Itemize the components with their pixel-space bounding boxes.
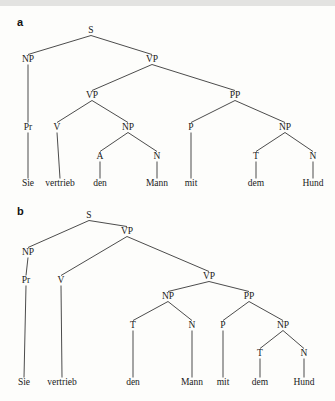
tree-node-label: VP	[146, 54, 158, 64]
syntax-tree-panel-a: a SNPVPVPPPPrVNPPNPANTNSievertriebdenMan…	[0, 0, 335, 200]
tree-leaf-word: Hund	[293, 377, 314, 387]
tree-edge	[92, 101, 128, 123]
tree-node-label: T	[257, 348, 263, 358]
tree-edge	[283, 331, 304, 349]
tree-leaf-word: den	[93, 178, 107, 188]
tree-node-label: NP	[22, 247, 34, 257]
tree-edge	[57, 101, 92, 123]
tree-node-label: VP	[121, 226, 133, 236]
tree-leaf-word: vertrieb	[47, 377, 77, 387]
tree-edge	[223, 302, 249, 321]
tree-edge	[168, 302, 192, 321]
tree-edge	[61, 286, 62, 378]
tree-edge	[128, 133, 157, 152]
tree-leaf-word: vertrieb	[45, 178, 75, 188]
tree-node-label: Pr	[22, 275, 31, 285]
tree-leaf-word: mit	[217, 377, 230, 387]
tree-node-label: NP	[279, 122, 291, 132]
tree-leaf-word: Sie	[22, 178, 34, 188]
tree-edge	[26, 258, 28, 276]
tree-node-label: A	[97, 151, 104, 161]
tree-edge	[168, 282, 209, 292]
tree-diagram-a: SNPVPVPPPPrVNPPNPANTNSievertriebdenMannm…	[0, 0, 335, 200]
tree-node-label: NP	[277, 320, 289, 330]
tree-edge	[28, 36, 91, 55]
tree-node-label: S	[86, 210, 91, 220]
tree-edge	[191, 101, 235, 123]
tree-node-label: N	[189, 320, 196, 330]
tree-leaf-word: mit	[185, 178, 198, 188]
tree-leaf-word: dem	[248, 178, 265, 188]
tree-node-label: N	[310, 151, 317, 161]
tree-edge	[28, 221, 89, 248]
tree-diagram-b: SNPVPPrVVPNPPPTNPNPTNSievertriebdenMannm…	[0, 198, 335, 401]
tree-leaf-word: Mann	[146, 178, 168, 188]
tree-node-label: N	[301, 348, 308, 358]
tree-node-label: VP	[203, 271, 215, 281]
tree-node-label: PP	[230, 90, 241, 100]
tree-leaf-word: Sie	[18, 377, 30, 387]
tree-leaf-word: dem	[252, 377, 269, 387]
tree-edge	[152, 65, 235, 91]
tree-edge	[127, 237, 209, 272]
tree-edge	[100, 133, 128, 152]
tree-edge	[24, 286, 26, 378]
tree-leaf-word: den	[126, 377, 140, 387]
tree-edge	[133, 302, 168, 321]
tree-node-label: N	[154, 151, 161, 161]
tree-edge	[209, 282, 249, 292]
tree-node-label: S	[88, 25, 93, 35]
tree-leaf-word: Hund	[302, 178, 323, 188]
tree-node-label: PP	[244, 291, 255, 301]
tree-node-label: VP	[86, 90, 98, 100]
tree-node-label: T	[253, 151, 259, 161]
tree-node-label: Pr	[24, 122, 33, 132]
tree-edge	[235, 101, 285, 123]
tree-node-label: P	[188, 122, 193, 132]
tree-edge	[260, 331, 283, 349]
tree-edge	[91, 36, 152, 55]
syntax-tree-panel-b: b SNPVPPrVVPNPPPTNPNPTNSievertriebdenMan…	[0, 198, 335, 401]
tree-edge	[61, 237, 127, 276]
tree-edge	[285, 133, 313, 152]
tree-edge	[249, 302, 283, 321]
figure-page: a SNPVPVPPPPrVNPPNPANTNSievertriebdenMan…	[0, 0, 335, 401]
tree-edge	[57, 133, 60, 179]
tree-node-label: V	[58, 275, 65, 285]
tree-node-label: V	[54, 122, 61, 132]
tree-node-label: P	[220, 320, 225, 330]
tree-edge	[92, 65, 152, 91]
tree-node-label: NP	[122, 122, 134, 132]
tree-leaf-word: Mann	[181, 377, 203, 387]
tree-node-label: NP	[162, 291, 174, 301]
tree-edge	[256, 133, 285, 152]
tree-node-label: T	[130, 320, 136, 330]
tree-node-label: NP	[22, 54, 34, 64]
